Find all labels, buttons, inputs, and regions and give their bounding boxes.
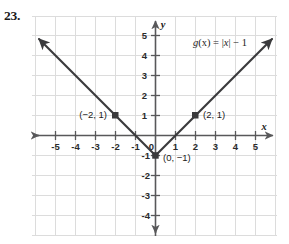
point-label-left: (−2, 1) — [79, 109, 107, 120]
point-label-vertex: (0, −1) — [163, 152, 191, 163]
grid-background — [32, 16, 277, 236]
y-axis-name: y — [159, 19, 166, 30]
x-axis-name: x — [260, 121, 266, 132]
coordinate-plane-graph: -5 -4 -3 -2 -1 0 1 2 3 4 5 5 4 3 2 1 -1 … — [0, 0, 289, 244]
point-marker-left — [112, 112, 119, 119]
x-tick-label: -3 — [91, 141, 99, 152]
x-tick-label: 2 — [193, 141, 198, 152]
y-tick-label: -1 — [142, 150, 151, 161]
y-tick-label: -2 — [142, 170, 150, 181]
y-tick-label: 2 — [142, 90, 147, 101]
y-tick-label: 5 — [142, 30, 148, 41]
y-tick-label: 4 — [142, 50, 148, 61]
point-marker-vertex — [152, 152, 159, 159]
y-tick-label: 3 — [142, 70, 147, 81]
y-tick-label: -3 — [142, 190, 150, 201]
function-equation-open: (x) = | — [198, 37, 224, 49]
x-tick-label: -2 — [111, 141, 119, 152]
function-equation-label: g(x) = |x| − 1 — [193, 37, 247, 49]
x-tick-label: 1 — [173, 141, 179, 152]
x-tick-label: 3 — [213, 141, 218, 152]
y-tick-label: -4 — [142, 210, 151, 221]
point-label-right: (2, 1) — [203, 109, 225, 120]
x-tick-label: 5 — [253, 141, 259, 152]
x-tick-label: -5 — [51, 141, 60, 152]
point-marker-right — [192, 112, 199, 119]
function-equation-tail: | − 1 — [228, 37, 247, 48]
x-tick-label: -4 — [71, 141, 80, 152]
figure-container: 23. — [0, 0, 289, 244]
x-tick-label: 4 — [233, 141, 239, 152]
x-tick-label: -1 — [131, 141, 140, 152]
y-tick-label: 1 — [142, 110, 148, 121]
